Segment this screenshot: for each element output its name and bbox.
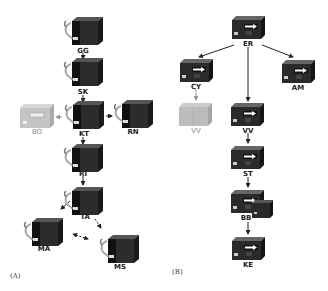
node-label-ma: MA <box>24 245 64 253</box>
node-label-st: ST <box>228 170 268 178</box>
device-vv-icon <box>231 103 264 126</box>
node-label-ms: MS <box>100 263 140 271</box>
device-kt-icon <box>66 101 105 129</box>
device-gg-icon <box>65 17 104 45</box>
device-ri-icon <box>65 144 104 172</box>
device-st-icon <box>231 146 264 169</box>
device-ke-icon <box>232 237 265 260</box>
node-label-kt: KT <box>64 130 104 138</box>
panel-label-a: (A) <box>10 272 21 280</box>
panel-label-b: (B) <box>172 268 183 276</box>
node-label-bb: BB <box>226 214 266 222</box>
device-rn-icon <box>115 100 154 128</box>
node-label-vv: VV <box>228 127 268 135</box>
device-vv-grey-icon <box>179 103 212 126</box>
device-ma-icon <box>25 218 64 246</box>
node-label-bo: BO <box>17 128 57 136</box>
device-er-icon <box>232 16 265 39</box>
device-bo-icon <box>20 104 54 128</box>
node-label-ta: TA <box>65 213 105 221</box>
device-ta-icon <box>65 187 104 215</box>
node-label-gg: GG <box>63 47 103 55</box>
device-am-icon <box>282 60 315 83</box>
node-label-cy: CY <box>176 83 216 91</box>
device-cy-icon <box>180 59 213 82</box>
device-ms-icon <box>101 235 140 263</box>
node-label-rn: RN <box>113 128 153 136</box>
node-label-sk: SK <box>63 88 103 96</box>
node-label-er: ER <box>228 40 268 48</box>
node-label-ke: KE <box>228 261 268 269</box>
device-sk-icon <box>65 58 104 86</box>
node-label-am: AM <box>278 84 318 92</box>
node-label-ri: RI <box>63 170 103 178</box>
node-label-vv-grey: VV <box>176 127 216 135</box>
